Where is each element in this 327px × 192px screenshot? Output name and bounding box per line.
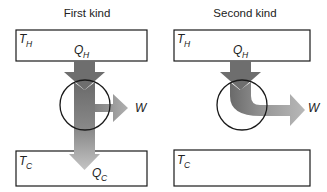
svg-text:Q: Q [233,43,242,57]
work-label: W [308,101,321,115]
svg-text:W: W [135,101,148,115]
svg-text:H: H [242,50,249,60]
svg-text:Q: Q [74,43,83,57]
svg-text:C: C [184,160,191,170]
panel-title: Second kind [213,7,276,19]
svg-text:H: H [184,39,191,49]
svg-text:C: C [26,161,33,171]
work-label: W [135,101,148,115]
svg-text:C: C [101,173,108,183]
svg-text:H: H [83,50,90,60]
panel-title: First kind [64,7,111,19]
cold-reservoir-box [174,150,310,186]
heat-out-arrow [69,82,100,170]
svg-text:W: W [308,101,321,115]
panel-first-kind: First kind T H Q H T C W Q C [16,7,148,186]
perpetual-motion-diagram: First kind T H Q H T C W Q C [0,0,327,192]
svg-text:H: H [26,39,33,49]
panel-second-kind: Second kind T H Q H T C W [174,7,321,186]
svg-text:Q: Q [92,166,101,180]
